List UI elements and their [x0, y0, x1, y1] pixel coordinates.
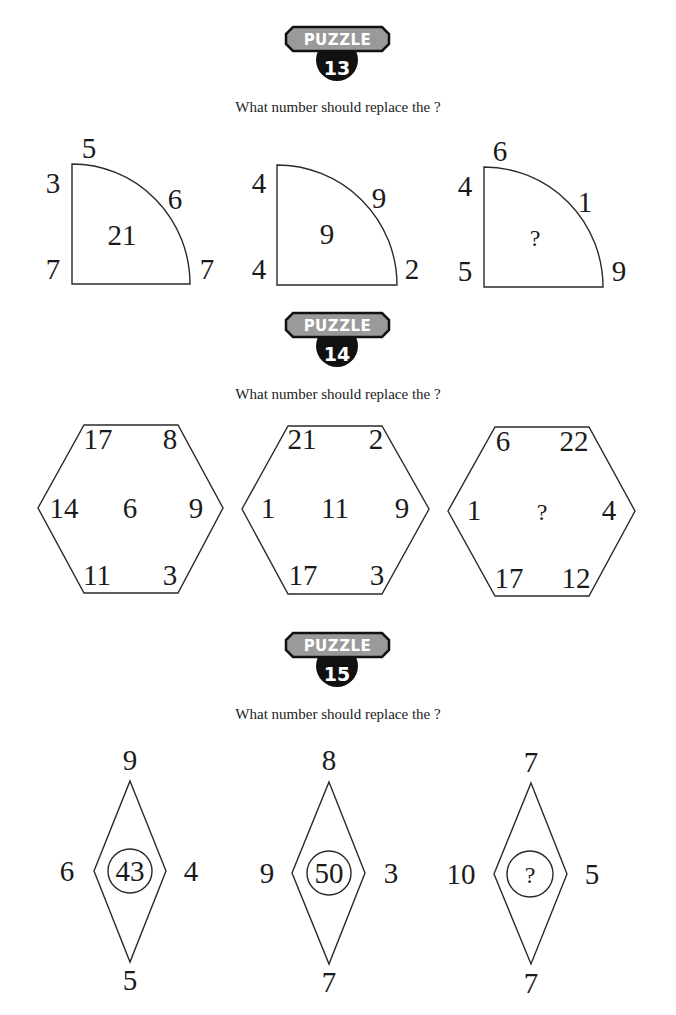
puzzle-14: PUZZLE 14 What number should replace the…: [38, 313, 635, 596]
quarter-circle-figure: 4 4 9 2 9: [252, 165, 420, 285]
value-right-bottom: 7: [200, 253, 215, 285]
value-arc: 9: [372, 182, 387, 214]
value-bottom: 7: [322, 966, 337, 998]
value-left-bottom: 5: [458, 255, 473, 287]
value-right: 9: [189, 492, 204, 524]
value-left-top: 3: [46, 167, 61, 199]
value-center: 43: [116, 855, 145, 887]
quarter-circle-shape: [484, 167, 603, 287]
value-bottom: 5: [123, 964, 138, 996]
value-arc: 1: [578, 186, 593, 218]
value-center: 11: [321, 492, 349, 524]
value-center-unknown: ?: [530, 225, 541, 251]
value-bottom-left: 17: [495, 562, 524, 594]
puzzle-prompt: What number should replace the ?: [235, 706, 441, 722]
value-top-right: 8: [163, 423, 178, 455]
value-left-bottom: 4: [252, 253, 267, 285]
value-top: 9: [123, 744, 138, 776]
badge-number: 15: [324, 663, 350, 685]
value-right-bottom: 2: [405, 253, 420, 285]
value-bottom-right: 3: [163, 559, 178, 591]
value-top: 7: [524, 746, 539, 778]
value-bottom-left: 11: [83, 559, 111, 591]
quarter-circle-figure: 5 3 7 6 7 21: [46, 132, 215, 285]
value-center: 9: [320, 218, 335, 250]
value-right: 9: [395, 492, 410, 524]
diamond-figure: 7 10 ? 5 7: [447, 746, 600, 999]
value-left-top: 4: [252, 167, 267, 199]
value-right: 5: [585, 858, 600, 890]
puzzle-prompt: What number should replace the ?: [235, 99, 441, 115]
diamond-figure: 9 6 43 4 5: [60, 744, 199, 996]
value-center: 6: [123, 492, 138, 524]
value-left-bottom: 7: [46, 253, 61, 285]
value-bottom: 7: [524, 967, 539, 999]
value-right: 4: [602, 494, 617, 526]
value-bottom-right: 12: [562, 562, 591, 594]
value-left: 9: [260, 857, 275, 889]
puzzle-badge: PUZZLE 15: [286, 633, 389, 687]
value-top-right: 2: [369, 423, 384, 455]
puzzle-badge: PUZZLE 13: [286, 27, 389, 81]
puzzle-prompt: What number should replace the ?: [235, 386, 441, 402]
badge-label: PUZZLE: [304, 317, 372, 335]
value-center: 21: [108, 219, 137, 251]
value-bottom-left: 17: [289, 559, 318, 591]
value-center-unknown: ?: [537, 499, 548, 525]
value-left: 14: [50, 492, 80, 524]
value-arc: 6: [168, 183, 183, 215]
hexagon-figure: 17 8 14 6 9 11 3: [38, 423, 223, 593]
value-right: 4: [184, 855, 199, 887]
value-left-top: 4: [458, 170, 473, 202]
value-right-bottom: 9: [612, 255, 627, 287]
value-top-left: 21: [288, 423, 317, 455]
value-top: 6: [493, 135, 508, 167]
diamond-figure: 8 9 50 3 7: [260, 744, 399, 998]
hexagon-figure: 21 2 1 11 9 17 3: [242, 423, 429, 594]
puzzle-page: PUZZLE 13 What number should replace the…: [0, 0, 676, 1015]
puzzle-15: PUZZLE 15 What number should replace the…: [60, 633, 600, 999]
puzzle-badge: PUZZLE 14: [286, 313, 389, 367]
quarter-circle-figure: 6 4 5 1 9 ?: [458, 135, 627, 287]
value-center: 50: [315, 857, 344, 889]
value-left: 6: [60, 855, 75, 887]
puzzle-canvas: PUZZLE 13 What number should replace the…: [0, 0, 676, 1015]
badge-number: 13: [324, 57, 350, 79]
value-top: 5: [82, 132, 97, 164]
hexagon-figure: 6 22 1 ? 4 17 12: [448, 425, 635, 596]
value-top-right: 22: [560, 425, 589, 457]
value-top-left: 17: [84, 423, 113, 455]
value-bottom-right: 3: [370, 559, 385, 591]
value-top-left: 6: [496, 425, 511, 457]
value-center-unknown: ?: [525, 862, 536, 888]
puzzle-13: PUZZLE 13 What number should replace the…: [46, 27, 627, 287]
value-right: 3: [384, 857, 399, 889]
value-left: 1: [261, 492, 276, 524]
badge-label: PUZZLE: [304, 31, 372, 49]
value-left: 10: [447, 858, 476, 890]
value-left: 1: [467, 494, 482, 526]
badge-label: PUZZLE: [304, 637, 372, 655]
value-top: 8: [322, 744, 337, 776]
badge-number: 14: [324, 343, 350, 365]
